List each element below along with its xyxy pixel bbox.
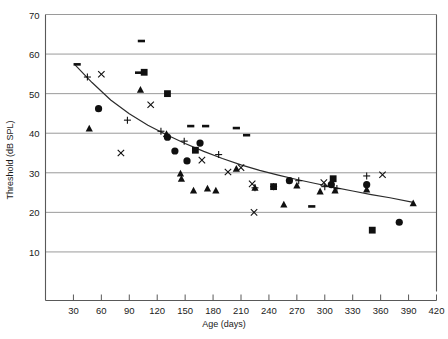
point-circle-6 [328, 181, 335, 188]
point-circle-5 [286, 177, 293, 184]
y-tick-label-40: 40 [29, 128, 40, 139]
scatter-chart: 10203040506070 3060901201501802102402703… [0, 0, 448, 339]
point-dash-4 [202, 125, 209, 128]
point-circle-2 [171, 147, 178, 154]
point-square-4 [330, 175, 337, 182]
point-square-0 [141, 69, 148, 76]
x-tick-label-60: 60 [96, 305, 107, 316]
point-square-2 [192, 147, 199, 154]
point-circle-3 [183, 157, 190, 164]
point-dash-7 [308, 205, 315, 208]
x-tick-label-330: 330 [345, 305, 361, 316]
x-tick-label-90: 90 [124, 305, 135, 316]
x-tick-label-210: 210 [233, 305, 249, 316]
x-tick-label-30: 30 [68, 305, 79, 316]
x-tick-label-180: 180 [205, 305, 221, 316]
y-tick-label-60: 60 [29, 49, 40, 60]
y-tick-label-30: 30 [29, 168, 40, 179]
point-square-1 [164, 90, 171, 97]
point-square-3 [270, 183, 277, 190]
point-dash-1 [138, 40, 145, 43]
point-dash-5 [233, 127, 240, 130]
x-tick-label-420: 420 [429, 305, 445, 316]
y-tick-label-20: 20 [29, 207, 40, 218]
x-tick-label-240: 240 [261, 305, 277, 316]
x-tick-label-150: 150 [177, 305, 193, 316]
x-tick-label-270: 270 [289, 305, 305, 316]
y-tick-label-70: 70 [29, 10, 40, 21]
y-axis-title: Threshold (dB SPL) [5, 120, 15, 199]
point-dash-6 [243, 134, 250, 137]
point-dash-3 [187, 125, 194, 128]
x-tick-label-120: 120 [149, 305, 165, 316]
x-tick-label-360: 360 [373, 305, 389, 316]
point-circle-8 [396, 219, 403, 226]
point-dash-0 [74, 63, 81, 66]
x-tick-label-300: 300 [317, 305, 333, 316]
chart-canvas: 10203040506070 3060901201501802102402703… [0, 0, 448, 339]
x-axis-title: Age (days) [202, 319, 246, 329]
point-square-5 [369, 227, 376, 234]
y-tick-label-10: 10 [29, 247, 40, 258]
y-tick-label-50: 50 [29, 89, 40, 100]
point-circle-0 [95, 105, 102, 112]
point-circle-4 [196, 140, 203, 147]
x-tick-label-390: 390 [401, 305, 417, 316]
chart-background [0, 0, 448, 339]
